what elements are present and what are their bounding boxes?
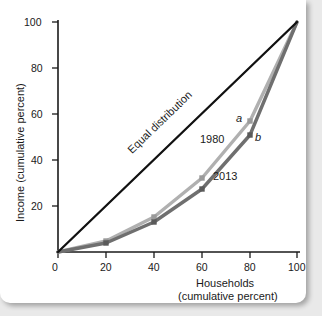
y-tick-label-60: 60 — [31, 108, 43, 120]
y-tick-label-100: 100 — [24, 16, 42, 28]
y-tick-label-80: 80 — [31, 62, 43, 74]
y-tick-label-40: 40 — [31, 154, 43, 166]
chart-canvas — [0, 0, 322, 316]
marker-1980-80-point-a — [247, 118, 252, 123]
series-label-2013: 2013 — [213, 170, 237, 182]
point-label-a: a — [236, 112, 242, 124]
lorenz-curve-chart: 100 80 60 40 20 0 20 40 60 80 100 Income… — [0, 0, 322, 316]
marker-2013-80-point-b — [247, 132, 252, 137]
x-tick-label-100: 100 — [288, 261, 306, 273]
marker-2013-40 — [151, 219, 156, 224]
x-tick-label-20: 20 — [100, 261, 112, 273]
x-tick-label-40: 40 — [148, 261, 160, 273]
y-axis-title: Income (cumulative percent) — [14, 83, 26, 222]
marker-2013-60 — [199, 186, 204, 191]
point-label-b: b — [255, 131, 261, 143]
series-label-1980: 1980 — [200, 133, 224, 145]
marker-1980-60 — [199, 175, 204, 180]
x-tick-label-60: 60 — [196, 261, 208, 273]
marker-2013-20 — [103, 240, 108, 245]
x-tick-label-80: 80 — [244, 261, 256, 273]
y-tick-label-20: 20 — [31, 200, 43, 212]
x-axis-title: Households — [196, 277, 254, 289]
x-axis-title-line2: (cumulative percent) — [178, 290, 278, 302]
equal-distribution-line — [58, 22, 297, 252]
y-tick-label-0: 0 — [52, 261, 58, 273]
